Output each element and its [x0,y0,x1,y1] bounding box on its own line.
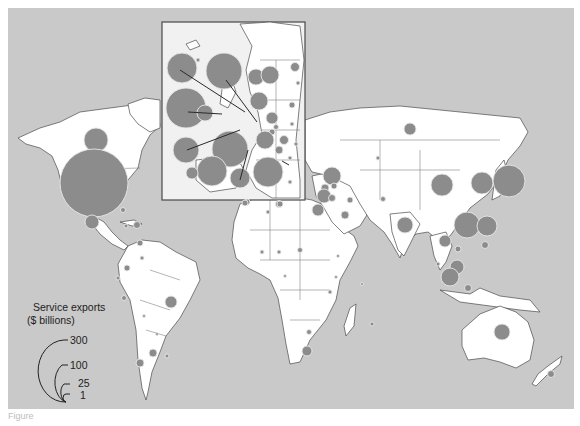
figure-caption: Figure [8,411,34,421]
legend-value-25: 25 [78,377,90,389]
world-map: Service exports ($ billions) 300 100 25 … [8,8,574,409]
indonesia-landmass [440,288,540,312]
legend-value-100: 100 [70,359,88,371]
new-zealand-landmass [532,356,562,386]
legend-value-1: 1 [80,389,86,401]
legend-value-300: 300 [70,334,88,346]
legend-title-line2: ($ billions) [27,314,75,326]
legend-title-line1: Service exports [33,301,105,313]
south-america-landmass [118,240,200,400]
size-legend: Service exports ($ billions) 300 100 25 … [27,301,105,402]
madagascar-landmass [344,304,356,336]
